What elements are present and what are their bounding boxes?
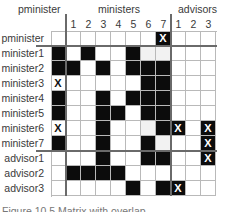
matrix-cell	[81, 151, 96, 166]
column-label: 2	[186, 18, 201, 30]
row-label-advisor3: advisor3	[0, 181, 44, 196]
matrix-cell	[81, 136, 96, 151]
matrix-cell	[201, 31, 216, 46]
column-label: 7	[156, 18, 171, 30]
matrix-cell	[111, 91, 126, 106]
row-label-minister2: minister2	[0, 61, 44, 76]
matrix-cell	[111, 106, 126, 121]
matrix-cell	[201, 166, 216, 181]
matrix-cell	[186, 121, 201, 136]
matrix-cell	[66, 136, 81, 151]
matrix-cell	[81, 181, 96, 196]
matrix-cell	[51, 61, 66, 76]
matrix-cell: X	[156, 31, 171, 46]
matrix-cell	[156, 106, 171, 121]
matrix-cell: X	[201, 136, 216, 151]
matrix-cell	[126, 106, 141, 121]
header-ministers: ministers	[98, 3, 140, 15]
row-label-pminister: pminister	[0, 31, 44, 46]
matrix-cell	[66, 61, 81, 76]
matrix-cell	[51, 151, 66, 166]
matrix-cell	[141, 31, 156, 46]
matrix-cell	[81, 166, 96, 181]
matrix-cell	[186, 31, 201, 46]
matrix-cell	[156, 151, 171, 166]
matrix-cell	[51, 181, 66, 196]
column-label: 3	[201, 18, 216, 30]
header-advisors: advisors	[178, 3, 217, 15]
matrix-cell	[171, 166, 186, 181]
matrix-cell	[126, 61, 141, 76]
matrix-cell: X	[171, 121, 186, 136]
matrix-cell	[51, 166, 66, 181]
matrix-cell	[156, 46, 171, 61]
matrix-cell	[51, 136, 66, 151]
matrix-cell	[171, 106, 186, 121]
row-label-minister7: minister7	[0, 136, 44, 151]
matrix-cell	[141, 136, 156, 151]
matrix-cell	[201, 106, 216, 121]
matrix-cell	[66, 106, 81, 121]
matrix-cell	[51, 106, 66, 121]
column-label: 2	[81, 18, 96, 30]
matrix-cell	[141, 76, 156, 91]
matrix-cell	[141, 181, 156, 196]
row-label-minister3: minister3	[0, 76, 44, 91]
matrix-cell	[186, 151, 201, 166]
column-label: 1	[66, 18, 81, 30]
matrix-cell	[156, 181, 171, 196]
matrix-cell	[96, 106, 111, 121]
matrix-cell	[171, 151, 186, 166]
row-label-minister1: minister1	[0, 46, 44, 61]
matrix-cell	[201, 46, 216, 61]
matrix-cell	[51, 31, 66, 46]
separator-vertical-advisors	[170, 14, 172, 196]
matrix-cell	[126, 76, 141, 91]
matrix-cell	[126, 151, 141, 166]
matrix-cell	[186, 76, 201, 91]
matrix-cell	[156, 91, 171, 106]
matrix-cell	[126, 181, 141, 196]
matrix-cell	[96, 136, 111, 151]
matrix-cell	[81, 91, 96, 106]
matrix-cell	[126, 121, 141, 136]
matrix-cell	[201, 91, 216, 106]
matrix-cell	[66, 31, 81, 46]
matrix-cell	[81, 31, 96, 46]
matrix-cell	[141, 46, 156, 61]
matrix-cell	[111, 76, 126, 91]
matrix-cell	[66, 121, 81, 136]
matrix-cell	[186, 46, 201, 61]
matrix-cell	[96, 76, 111, 91]
separator-horizontal-pminister	[36, 45, 217, 47]
matrix-cell	[201, 76, 216, 91]
matrix-cell	[186, 166, 201, 181]
matrix-cell	[66, 76, 81, 91]
matrix-cell	[126, 91, 141, 106]
matrix-cell	[171, 46, 186, 61]
row-label-minister6: minister6	[0, 121, 44, 136]
matrix-cell	[186, 91, 201, 106]
matrix-cell	[111, 166, 126, 181]
matrix-cell: X	[51, 76, 66, 91]
matrix-cell	[111, 151, 126, 166]
row-label-minister5: minister5	[0, 106, 44, 121]
matrix-cell: X	[201, 151, 216, 166]
matrix-cell	[156, 121, 171, 136]
matrix-cell	[81, 121, 96, 136]
matrix-cell	[96, 121, 111, 136]
matrix-cell	[126, 136, 141, 151]
matrix-cell	[186, 61, 201, 76]
column-label: 3	[96, 18, 111, 30]
matrix-cell: X	[171, 181, 186, 196]
matrix-cell	[81, 46, 96, 61]
matrix-cell	[111, 136, 126, 151]
matrix-cell	[141, 166, 156, 181]
matrix-cell	[171, 61, 186, 76]
column-label: 4	[111, 18, 126, 30]
matrix-cell	[96, 61, 111, 76]
column-label: 1	[171, 18, 186, 30]
matrix-cell	[201, 61, 216, 76]
matrix-cell	[186, 136, 201, 151]
matrix-cell	[171, 136, 186, 151]
